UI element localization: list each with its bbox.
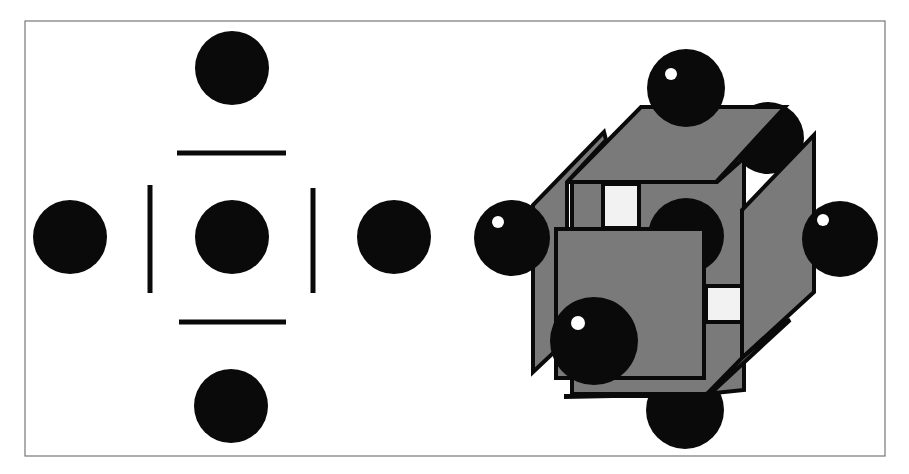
cube-perspective <box>474 49 878 449</box>
planar-projection <box>33 31 431 443</box>
diagram-figure <box>0 0 909 474</box>
atom-right <box>357 200 431 274</box>
sphere-right-highlight <box>817 214 829 226</box>
sphere-front <box>550 297 638 385</box>
sphere-front-highlight <box>571 316 585 330</box>
atom-bottom <box>194 369 268 443</box>
sphere-right <box>802 201 878 277</box>
gap-lower <box>706 286 742 322</box>
sphere-top <box>647 49 725 127</box>
sphere-top-highlight <box>665 68 677 80</box>
atom-left <box>33 200 107 274</box>
sphere-left-highlight <box>492 216 504 228</box>
atom-top <box>195 31 269 105</box>
sphere-left <box>474 200 550 276</box>
atom-center <box>195 200 269 274</box>
gap-upper <box>603 184 639 228</box>
